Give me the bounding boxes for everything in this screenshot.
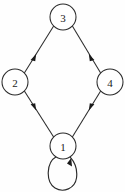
edge-3-to-2 [24,26,54,73]
node-group: 3 2 4 1 [2,4,123,159]
graph-canvas: 3 2 4 1 [0,0,125,192]
edge-3-to-4 [72,26,101,73]
edge-1-to-2-arrowhead [31,103,37,110]
edge-1-to-4 [72,91,101,137]
graph-diagram: 3 2 4 1 [0,0,125,192]
edge-1-to-2 [24,91,54,137]
self-loop-node-1 [48,157,76,191]
edge-1-to-2-line [24,91,54,137]
node-3[interactable]: 3 [50,4,76,30]
node-2-label: 2 [12,77,18,89]
edge-3-to-2-arrowhead [31,54,37,61]
node-1-label: 1 [60,141,66,153]
node-2[interactable]: 2 [2,69,28,95]
node-4-label: 4 [107,77,113,89]
self-loop-node-1-arrowhead [67,158,72,167]
edge-3-to-4-line [72,26,101,73]
node-3-label: 3 [60,12,66,24]
edge-3-to-4-arrowhead [89,54,95,61]
self-loop-node-1-path [48,157,76,191]
node-4[interactable]: 4 [97,69,123,95]
edge-1-to-4-line [72,91,101,137]
node-1[interactable]: 1 [50,133,76,159]
edge-group [24,26,101,190]
edge-1-to-4-arrowhead [89,103,95,110]
edge-3-to-2-line [24,26,54,73]
